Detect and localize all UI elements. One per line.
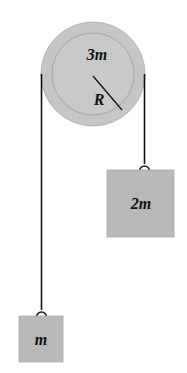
radius-label: R (93, 91, 105, 108)
pulley: 3m R (41, 22, 145, 126)
left-mass: m (19, 312, 63, 362)
right-mass-label: 2m (130, 195, 151, 212)
pulley-mass-label: 3m (86, 46, 107, 63)
pulley-diagram: 3m R 2m m (0, 0, 187, 373)
left-mass-label: m (35, 331, 47, 348)
right-mass: 2m (107, 166, 174, 237)
